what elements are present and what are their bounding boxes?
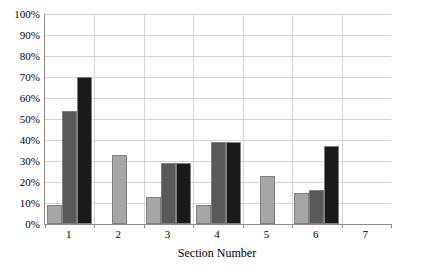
x-axis-tick-labels: 1234567 [44,228,390,244]
y-axis-tick-label: 90% [0,30,40,41]
bar [294,193,309,225]
x-axis-tick-label: 2 [115,228,121,241]
x-axis-tick-label: 1 [66,228,72,241]
y-axis-tick-label: 50% [0,114,40,125]
y-axis-tick-label: 70% [0,72,40,83]
x-axis-tick-mark [391,224,392,228]
y-axis-tick-labels: 0%10%20%30%40%50%60%70%80%90%100% [0,0,40,271]
y-axis-tick-label: 80% [0,51,40,62]
y-axis-tick-label: 30% [0,156,40,167]
y-axis-tick-label: 20% [0,177,40,188]
bar [324,146,339,224]
bar-chart: 0%10%20%30%40%50%60%70%80%90%100% 123456… [0,0,423,271]
y-axis-tick-label: 40% [0,135,40,146]
x-axis-title: Section Number [44,246,390,260]
y-axis-tick-label: 60% [0,93,40,104]
plot-area [44,14,391,225]
x-axis-tick-label: 6 [313,228,319,241]
x-axis-tick-label: 5 [264,228,270,241]
x-axis-tick-label: 4 [214,228,220,241]
y-axis-tick-label: 100% [0,9,40,20]
y-axis-tick-label: 0% [0,219,40,230]
bar [309,190,324,224]
y-axis-tick-label: 10% [0,198,40,209]
bar-group [45,14,391,224]
x-axis-tick-label: 3 [165,228,171,241]
x-axis-tick-label: 7 [363,228,369,241]
